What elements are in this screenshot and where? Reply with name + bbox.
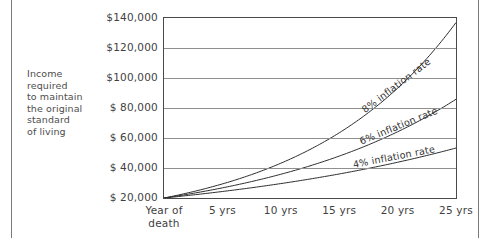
x-tick-label-line2: death	[124, 217, 204, 229]
inflation-line-chart: $140,000$120,000$100,000$ 80,000$ 60,000…	[0, 0, 493, 238]
x-tick-label-line1: 25 yrs	[416, 204, 493, 216]
page-background: Income required to maintain the original…	[0, 0, 493, 238]
x-tick-label: 25 yrs	[416, 204, 493, 216]
